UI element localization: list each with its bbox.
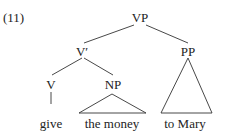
edge-vbar-v	[52, 58, 82, 75]
example-number: (11)	[3, 11, 24, 24]
pp-triangle	[161, 58, 212, 113]
leaf-to-mary: to Mary	[164, 117, 206, 130]
np-triangle	[79, 94, 146, 113]
edge-vp-pp	[146, 25, 188, 43]
edge-vbar-np	[84, 58, 113, 75]
node-pp: PP	[181, 45, 195, 58]
edge-vp-vbar	[84, 25, 134, 43]
leaf-the-money: the money	[85, 117, 140, 130]
node-v: V	[46, 78, 55, 91]
node-vp: VP	[132, 11, 149, 24]
leaf-give: give	[40, 117, 62, 130]
node-np: NP	[105, 78, 122, 91]
node-vbar: V′	[76, 45, 88, 58]
